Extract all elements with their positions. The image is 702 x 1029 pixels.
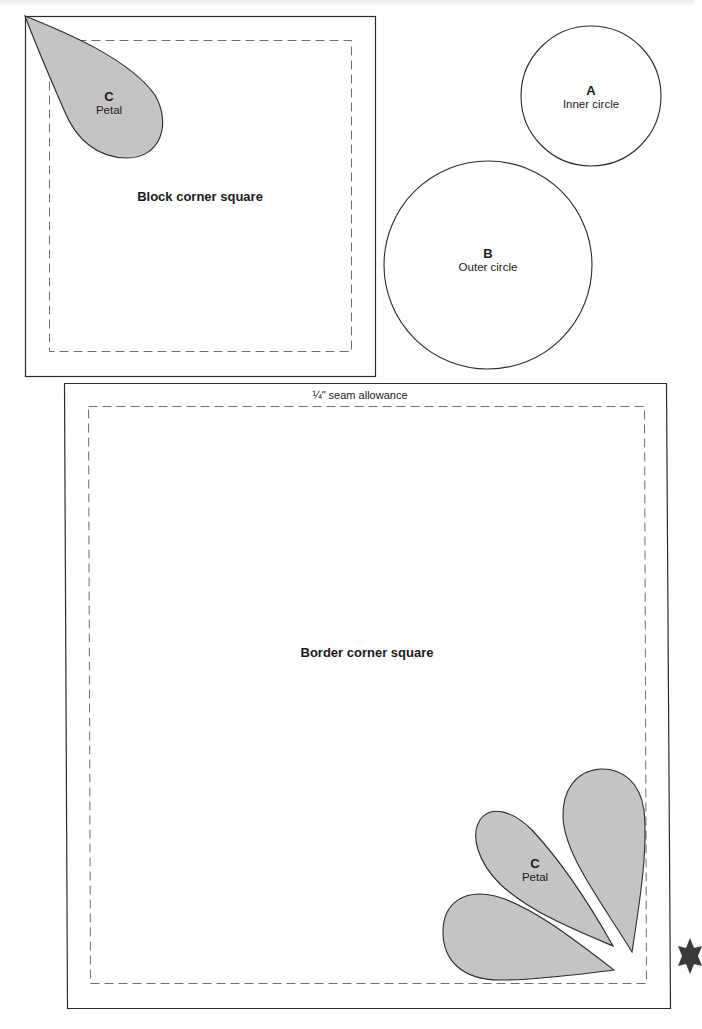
- circle-a-letter: A: [546, 84, 636, 98]
- seam-allowance-label: ¼" seam allowance: [300, 389, 420, 401]
- petal-letter: C: [79, 90, 139, 104]
- petal-name: Petal: [505, 871, 565, 884]
- petal-label-border: C Petal: [505, 857, 565, 884]
- petal-label-block: C Petal: [79, 90, 139, 117]
- border-corner-square-title: Border corner square: [292, 645, 442, 660]
- petal-name: Petal: [79, 104, 139, 117]
- circle-b-name: Outer circle: [443, 261, 533, 274]
- circle-b-letter: B: [443, 247, 533, 261]
- circle-a-name: Inner circle: [546, 98, 636, 111]
- petal-letter: C: [505, 857, 565, 871]
- circle-b-label: B Outer circle: [443, 247, 533, 274]
- circle-a-label: A Inner circle: [546, 84, 636, 111]
- star-icon: [678, 938, 702, 974]
- block-corner-square-title: Block corner square: [130, 189, 270, 204]
